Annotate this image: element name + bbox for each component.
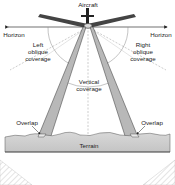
right-oblique-label-1: Right <box>136 41 151 48</box>
horizon-left-label: Horizon <box>3 31 25 38</box>
left-oblique-label-1: Left <box>33 41 44 48</box>
right-hatch <box>143 160 175 185</box>
right-oblique-arc <box>106 27 128 64</box>
left-oblique-label-3: coverage <box>25 55 51 62</box>
right-wing <box>87 14 136 28</box>
overlap-right-label: Overlap <box>141 119 163 126</box>
left-wing <box>38 14 88 28</box>
left-oblique-label-2: oblique <box>28 48 49 55</box>
aircraft-tail <box>81 15 94 17</box>
aerial-coverage-diagram: Aircraft Horizon Horizon Left oblique co… <box>0 0 175 185</box>
right-oblique-label-3: coverage <box>130 55 156 62</box>
left-oblique-arc <box>48 27 70 64</box>
left-hatch <box>0 160 32 185</box>
overlap-left-label: Overlap <box>16 119 38 126</box>
terrain-label: Terrain <box>80 142 99 149</box>
right-oblique-label-2: oblique <box>133 48 154 55</box>
vertical-label-1: Vertical <box>79 78 99 85</box>
aircraft-label: Aircraft <box>78 1 98 8</box>
vertical-label-2: coverage <box>76 85 102 92</box>
horizon-right-label: Horizon <box>150 31 172 38</box>
